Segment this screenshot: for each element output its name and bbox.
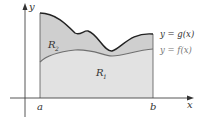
area-between-curves-diagram: y x a b y = g(x) y = f(x) R 2 R 1 [0,0,204,124]
bound-b-label: b [150,101,156,112]
y-axis-label: y [28,1,35,12]
svg-text:1: 1 [103,73,107,80]
x-axis-label: x [187,99,193,110]
curve-f-label: y = f(x) [159,45,192,55]
bound-a-label: a [37,101,43,112]
curve-g-label: y = g(x) [159,29,194,39]
y-axis-arrow-icon [23,3,28,10]
svg-text:2: 2 [54,45,59,52]
